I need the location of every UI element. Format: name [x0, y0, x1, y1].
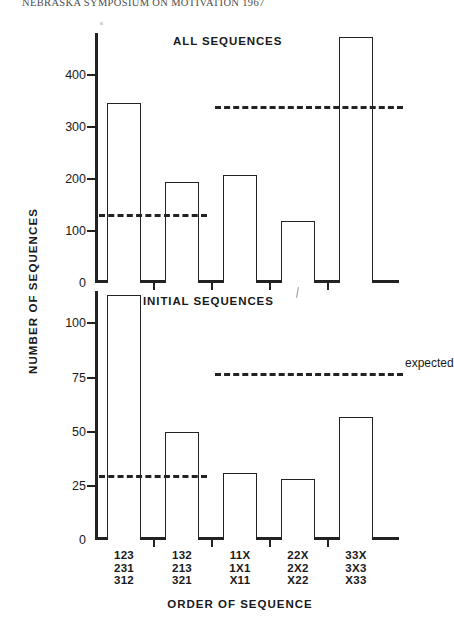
x-category-line: 22X [269, 549, 327, 562]
bar [223, 473, 257, 540]
bar [339, 417, 373, 540]
y-tick-mark [87, 431, 95, 433]
y-axis-line-all [95, 33, 98, 283]
x-category-line: 123 [95, 549, 153, 562]
y-tick-mark [87, 178, 95, 180]
expected-line [99, 214, 207, 217]
x-category-line: 33X [327, 549, 385, 562]
expected-line [215, 106, 403, 109]
x-tick-mark [269, 283, 271, 290]
running-head: NEBRASKA SYMPOSIUM ON MOTIVATION 1967 [22, 0, 265, 8]
x-tick-mark [153, 540, 155, 547]
x-category-line: X11 [211, 574, 269, 587]
bar [165, 182, 199, 283]
x-category-label: 11X1X1X11 [211, 549, 269, 587]
y-axis-line-initial [95, 291, 98, 540]
x-category-label: 123231312 [95, 549, 153, 587]
y-tick-label: 0 [79, 533, 95, 547]
x-category-line: 2X2 [269, 562, 327, 575]
x-category-line: 3X3 [327, 562, 385, 575]
y-tick-mark [87, 485, 95, 487]
y-tick-mark [87, 377, 95, 379]
x-category-line: 312 [95, 574, 153, 587]
bar [339, 37, 373, 283]
y-tick-mark [87, 126, 95, 128]
x-category-label: 33X3X3X33 [327, 549, 385, 587]
x-category-line: 11X [211, 549, 269, 562]
x-category-line: 132 [153, 549, 211, 562]
x-tick-mark [153, 283, 155, 290]
x-tick-mark [327, 540, 329, 547]
x-axis-category-labels: 12323131213221332111X1X1X1122X2X2X2233X3… [95, 549, 385, 593]
x-category-label: 132213321 [153, 549, 211, 587]
expected-line-label: expected [405, 356, 454, 370]
bar [165, 432, 199, 540]
bar [107, 295, 141, 540]
expected-line [215, 373, 403, 376]
y-tick-label: 0 [79, 276, 95, 290]
y-tick-mark [87, 322, 95, 324]
x-tick-mark [269, 540, 271, 547]
x-category-label: 22X2X2X22 [269, 549, 327, 587]
x-tick-mark [211, 283, 213, 290]
y-tick-mark [87, 74, 95, 76]
x-tick-mark [211, 540, 213, 547]
x-tick-mark [327, 283, 329, 290]
plot-area-initial-sequences: 0255075100expected [95, 291, 385, 540]
x-category-line: 213 [153, 562, 211, 575]
scan-speck [100, 22, 103, 25]
x-category-line: X33 [327, 574, 385, 587]
plot-area-all-sequences: 0100200300400 [95, 33, 385, 283]
x-category-line: 1X1 [211, 562, 269, 575]
x-category-line: 321 [153, 574, 211, 587]
x-category-line: X22 [269, 574, 327, 587]
expected-line [99, 475, 207, 478]
bar [281, 221, 315, 284]
y-axis-title: NUMBER OF SEQUENCES [27, 181, 39, 401]
panel-all-sequences: ALL SEQUENCES 0100200300400 [95, 33, 385, 283]
y-tick-mark [87, 230, 95, 232]
x-category-line: 231 [95, 562, 153, 575]
bar [281, 479, 315, 540]
x-axis-title: ORDER OF SEQUENCE [95, 598, 385, 610]
panel-initial-sequences: INITIAL SEQUENCES 0255075100expected [95, 291, 385, 540]
bar [223, 175, 257, 283]
bar [107, 103, 141, 283]
